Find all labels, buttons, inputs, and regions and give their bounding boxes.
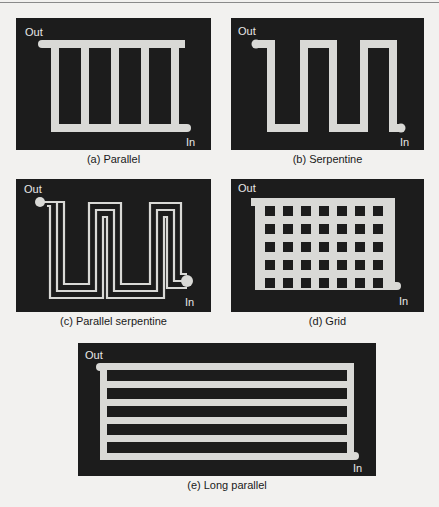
panel-serpentine: Out In bbox=[231, 18, 424, 150]
long-parallel-channel-diagram bbox=[78, 343, 376, 476]
in-label: In bbox=[353, 463, 362, 474]
serpentine-channel-diagram bbox=[231, 18, 424, 150]
in-label: In bbox=[400, 137, 409, 148]
out-label: Out bbox=[85, 350, 103, 361]
out-label: Out bbox=[238, 183, 256, 194]
caption-grid: (d) Grid bbox=[231, 315, 424, 327]
out-label: Out bbox=[24, 184, 42, 195]
caption-long-parallel: (e) Long parallel bbox=[78, 479, 376, 491]
out-label: Out bbox=[238, 26, 256, 37]
caption-parallel: (a) Parallel bbox=[16, 153, 211, 165]
caption-parallel-serpentine: (c) Parallel serpentine bbox=[16, 315, 211, 327]
top-rule bbox=[0, 2, 439, 3]
caption-serpentine: (b) Serpentine bbox=[231, 153, 424, 165]
panel-long-parallel: Out In bbox=[78, 343, 376, 476]
grid-channel-diagram bbox=[231, 179, 424, 312]
in-label: In bbox=[186, 137, 195, 148]
in-label: In bbox=[185, 297, 194, 308]
panel-parallel-serpentine: Out In bbox=[16, 179, 211, 312]
in-label: In bbox=[399, 296, 408, 307]
panel-parallel: Out In bbox=[16, 18, 211, 150]
out-label: Out bbox=[25, 27, 43, 38]
panel-grid: Out In bbox=[231, 179, 424, 312]
parallel-channel-diagram bbox=[16, 18, 211, 150]
parallel-serpentine-channel-diagram bbox=[16, 179, 211, 312]
